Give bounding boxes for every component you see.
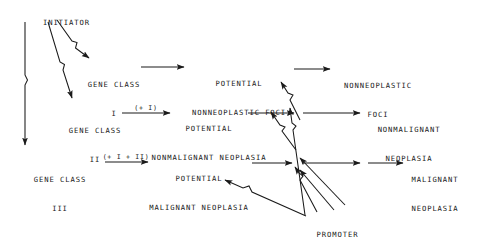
edge-label-gene-class-iii-modifier: (+ I + II): [103, 153, 150, 161]
node-gene-class-iii-line2: III: [34, 204, 86, 214]
edge-initiator-to-gene-class-iii: [25, 22, 28, 145]
node-potential-malignant-neoplasia-line2: MALIGNANT NEOPLASIA: [149, 203, 248, 213]
edge-label-gene-class-ii-modifier: (+ I): [134, 104, 157, 112]
edge-promoter-to-row2-junction-aux: [300, 158, 345, 205]
node-potential-malignant-neoplasia: POTENTIAL MALIGNANT NEOPLASIA: [149, 155, 248, 231]
node-nonneoplastic-foci-line1: NONNEOPLASTIC: [344, 81, 412, 91]
node-nonmalignant-neoplasia-line1: NONMALIGNANT: [378, 125, 441, 135]
node-promoter: PROMOTER: [296, 220, 359, 242]
node-gene-class-i-line1: GENE CLASS: [88, 80, 140, 90]
node-gene-class-ii-line1: GENE CLASS: [69, 126, 121, 136]
diagram-canvas: INITIATOR GENE CLASS I GENE CLASS II GEN…: [0, 0, 482, 242]
node-malignant-neoplasia: MALIGNANT NEOPLASIA: [411, 156, 458, 232]
node-potential-malignant-neoplasia-line1: POTENTIAL: [149, 174, 248, 184]
node-gene-class-iii: GENE CLASS III: [34, 156, 86, 232]
node-gene-class-iii-line1: GENE CLASS: [34, 175, 86, 185]
node-initiator: INITIATOR: [22, 8, 90, 37]
node-potential-nonmalignant-neoplasia-line1: POTENTIAL: [152, 124, 267, 134]
node-malignant-neoplasia-line2: NEOPLASIA: [411, 204, 458, 214]
edge-promoter-to-row3-junction: [295, 167, 317, 212]
node-potential-nonneoplastic-foci-line1: POTENTIAL: [192, 79, 286, 89]
node-malignant-neoplasia-line1: MALIGNANT: [411, 175, 458, 185]
